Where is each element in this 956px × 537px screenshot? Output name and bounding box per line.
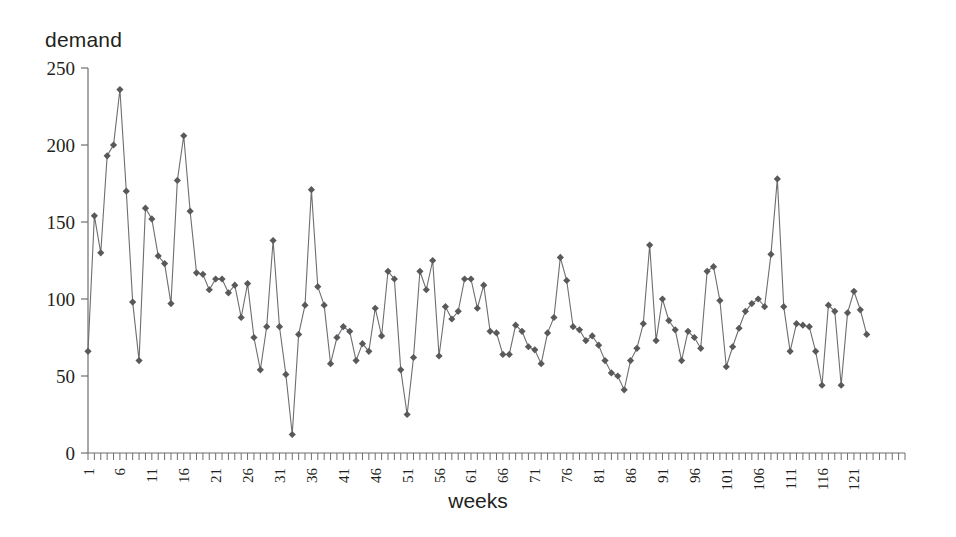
x-tick-label: 101 bbox=[719, 468, 735, 491]
data-point-marker bbox=[608, 369, 615, 376]
data-point-marker bbox=[557, 254, 564, 261]
data-point-marker bbox=[289, 431, 296, 438]
series-polyline bbox=[88, 90, 867, 435]
y-tick-label: 250 bbox=[47, 58, 76, 79]
x-tick-label: 86 bbox=[623, 468, 639, 484]
data-point-marker bbox=[435, 352, 442, 359]
data-point-marker bbox=[135, 357, 142, 364]
data-point-marker bbox=[767, 251, 774, 258]
x-tick-label: 16 bbox=[176, 468, 192, 484]
data-point-marker bbox=[308, 186, 315, 193]
data-point-marker bbox=[710, 263, 717, 270]
demand-line-chart: 050100150200250 161116212631364146515661… bbox=[0, 0, 956, 537]
data-point-marker bbox=[627, 357, 634, 364]
data-point-marker bbox=[314, 283, 321, 290]
chart-page: demand 050100150200250 16111621263136414… bbox=[0, 0, 956, 537]
x-tick-label: 36 bbox=[304, 468, 320, 484]
data-point-marker bbox=[659, 295, 666, 302]
data-point-marker bbox=[321, 302, 328, 309]
axes bbox=[88, 68, 905, 453]
x-tick-label: 121 bbox=[846, 468, 862, 491]
x-axis-title: weeks bbox=[0, 489, 956, 513]
data-point-marker bbox=[582, 337, 589, 344]
data-point-marker bbox=[174, 177, 181, 184]
data-point-marker bbox=[167, 300, 174, 307]
x-tick-label: 41 bbox=[336, 468, 352, 483]
data-point-marker bbox=[774, 175, 781, 182]
data-point-marker bbox=[550, 314, 557, 321]
data-point-marker bbox=[818, 382, 825, 389]
x-tick-label: 1 bbox=[81, 468, 97, 476]
x-tick-label: 66 bbox=[495, 468, 511, 484]
data-point-marker bbox=[218, 275, 225, 282]
data-point-marker bbox=[467, 275, 474, 282]
data-point-marker bbox=[84, 348, 91, 355]
data-point-marker bbox=[863, 331, 870, 338]
x-tick-label: 106 bbox=[751, 468, 767, 491]
data-point-marker bbox=[678, 357, 685, 364]
demand-series bbox=[84, 86, 870, 438]
data-point-marker bbox=[423, 286, 430, 293]
x-tick-label: 51 bbox=[400, 468, 416, 483]
x-tick-label: 46 bbox=[368, 468, 384, 484]
x-tick-label: 71 bbox=[527, 468, 543, 483]
y-tick-label: 150 bbox=[47, 212, 76, 233]
data-point-marker bbox=[614, 372, 621, 379]
data-point-marker bbox=[652, 337, 659, 344]
data-point-marker bbox=[123, 188, 130, 195]
data-point-marker bbox=[857, 306, 864, 313]
data-point-marker bbox=[442, 303, 449, 310]
x-tick-label: 91 bbox=[655, 468, 671, 483]
data-point-marker bbox=[621, 386, 628, 393]
data-point-marker bbox=[729, 343, 736, 350]
data-point-marker bbox=[576, 326, 583, 333]
data-point-marker bbox=[780, 303, 787, 310]
data-point-marker bbox=[91, 212, 98, 219]
data-point-marker bbox=[282, 371, 289, 378]
data-point-marker bbox=[212, 275, 219, 282]
data-point-marker bbox=[735, 325, 742, 332]
data-point-marker bbox=[723, 363, 730, 370]
data-point-marker bbox=[110, 141, 117, 148]
data-point-marker bbox=[104, 152, 111, 159]
data-point-marker bbox=[352, 357, 359, 364]
data-point-marker bbox=[238, 314, 245, 321]
x-tick-label: 56 bbox=[432, 468, 448, 484]
data-point-marker bbox=[704, 268, 711, 275]
y-tick-label: 200 bbox=[47, 135, 76, 156]
x-tick-label: 6 bbox=[112, 468, 128, 476]
data-point-marker bbox=[716, 297, 723, 304]
data-point-marker bbox=[461, 275, 468, 282]
data-point-marker bbox=[493, 329, 500, 336]
data-point-marker bbox=[633, 345, 640, 352]
data-point-marker bbox=[595, 342, 602, 349]
x-tick-label: 21 bbox=[208, 468, 224, 483]
data-point-marker bbox=[250, 334, 257, 341]
data-point-marker bbox=[416, 268, 423, 275]
data-point-marker bbox=[263, 323, 270, 330]
x-tick-label: 111 bbox=[783, 468, 799, 489]
data-point-marker bbox=[531, 346, 538, 353]
data-point-marker bbox=[487, 328, 494, 335]
data-point-marker bbox=[148, 215, 155, 222]
data-point-marker bbox=[327, 360, 334, 367]
data-point-marker bbox=[665, 317, 672, 324]
data-point-marker bbox=[116, 86, 123, 93]
data-point-marker bbox=[640, 320, 647, 327]
data-point-marker bbox=[474, 305, 481, 312]
x-tick-label: 96 bbox=[687, 468, 703, 484]
data-point-marker bbox=[506, 351, 513, 358]
x-tick-label: 116 bbox=[815, 468, 831, 490]
data-point-marker bbox=[180, 132, 187, 139]
data-point-marker bbox=[589, 332, 596, 339]
data-point-marker bbox=[844, 309, 851, 316]
x-tick-label: 11 bbox=[144, 468, 160, 482]
data-point-marker bbox=[301, 302, 308, 309]
data-point-marker bbox=[257, 366, 264, 373]
data-point-marker bbox=[199, 271, 206, 278]
data-point-marker bbox=[525, 343, 532, 350]
data-point-marker bbox=[397, 366, 404, 373]
x-tick-label: 61 bbox=[463, 468, 479, 483]
data-point-marker bbox=[129, 298, 136, 305]
data-point-marker bbox=[372, 305, 379, 312]
